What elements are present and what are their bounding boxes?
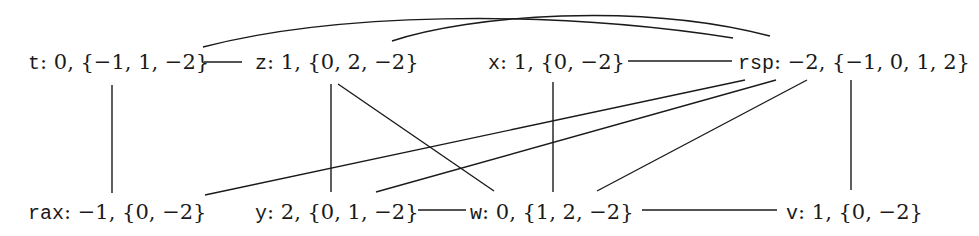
edge-t-rsp: [203, 19, 733, 47]
node-rsp-var: rsp: [738, 52, 774, 75]
node-z-var: z: [255, 52, 267, 75]
node-t-label: : 0, {−1, 1, −2}: [40, 50, 209, 74]
node-x: x: 1, {0, −2}: [488, 52, 625, 74]
node-v: v: 1, {0, −2}: [786, 202, 923, 224]
node-y-label: : 2, {0, 1, −2}: [267, 200, 419, 224]
node-v-var: v: [786, 202, 798, 225]
node-w: w: 0, {1, 2, −2}: [470, 202, 634, 224]
node-v-label: : 1, {0, −2}: [798, 200, 923, 224]
edge-rsp-w: [597, 80, 807, 191]
node-z-label: : 1, {0, 2, −2}: [267, 50, 419, 74]
node-w-label: : 0, {1, 2, −2}: [482, 200, 634, 224]
node-rsp-label: : −2, {−1, 0, 1, 2}: [774, 50, 970, 74]
node-rax-label: : −1, {0, −2}: [64, 200, 206, 224]
node-x-label: : 1, {0, −2}: [500, 50, 625, 74]
node-w-var: w: [470, 202, 482, 225]
node-y: y: 2, {0, 1, −2}: [255, 202, 419, 224]
node-t-var: t: [28, 52, 40, 75]
node-x-var: x: [488, 52, 500, 75]
node-t: t: 0, {−1, 1, −2}: [28, 52, 209, 74]
node-y-var: y: [255, 202, 267, 225]
node-z: z: 1, {0, 2, −2}: [255, 52, 419, 74]
edge-z-w: [338, 84, 494, 191]
node-rsp: rsp: −2, {−1, 0, 1, 2}: [738, 52, 970, 74]
edge-rsp-y: [376, 80, 776, 192]
node-rax: rax: −1, {0, −2}: [28, 202, 206, 224]
node-rax-var: rax: [28, 202, 64, 225]
